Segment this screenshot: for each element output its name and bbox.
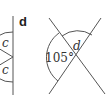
angle-label-c-lower: c [2,63,9,77]
angle-label-c-upper: c [2,36,9,50]
arc-d [62,31,92,36]
angle-label-d: d [73,39,81,53]
left-partial-diagram [0,16,13,95]
angle-label-105: 105° [45,51,74,65]
angle-diagram: c c d 105° d [0,0,111,109]
part-label: d [19,14,27,29]
arc-lower [0,78,13,82]
